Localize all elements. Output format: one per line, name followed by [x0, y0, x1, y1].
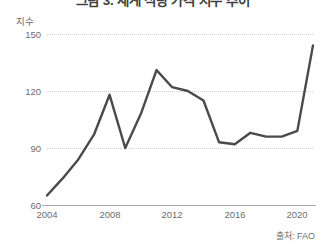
- line-series-food-price-index: [47, 34, 313, 205]
- x-tick-2016: 2016: [224, 209, 245, 220]
- y-tick-120: 120: [15, 87, 41, 97]
- x-axis-tick-labels: 2004 2008 2012 2016 2020: [47, 209, 313, 225]
- x-tick-2012: 2012: [161, 209, 182, 220]
- x-tick-2020: 2020: [286, 209, 307, 220]
- y-tick-150: 150: [15, 30, 41, 40]
- chart-figure: 그림 3. 세계 식량 가격 지수 추이 지수 150 120 90 60 20…: [0, 0, 325, 250]
- page-title: 그림 3. 세계 식량 가격 지수 추이: [0, 0, 325, 9]
- source-attribution: 출처: FAO: [276, 229, 315, 242]
- y-axis-unit-label: 지수: [16, 14, 34, 28]
- chart-title-clipped: 그림 3. 세계 식량 가격 지수 추이: [0, 0, 325, 9]
- plot-area: [47, 34, 313, 205]
- y-tick-90: 90: [15, 144, 41, 154]
- x-tick-2004: 2004: [36, 209, 57, 220]
- x-axis-line: [42, 205, 316, 206]
- x-tick-2008: 2008: [99, 209, 120, 220]
- y-axis-tick-labels: 150 120 90 60: [15, 34, 41, 205]
